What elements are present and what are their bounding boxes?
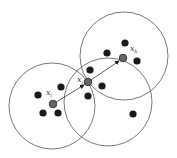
center-points [49,54,127,108]
center-xk [119,54,127,62]
data-point [57,83,64,90]
center-xi [49,100,57,108]
label-xi: xi [46,88,53,98]
data-point [54,109,61,116]
data-point [34,91,41,98]
data-point [121,39,128,46]
label-xj: xj [77,75,84,86]
data-point [103,49,110,56]
data-point [39,109,46,116]
data-point [86,66,93,73]
diagram-canvas: xixjxk [0,0,177,158]
center-xj [84,78,92,86]
data-point [129,110,136,117]
data-point [84,92,91,99]
data-point [98,82,105,89]
label-xk: xk [130,44,138,54]
data-point [133,57,140,64]
